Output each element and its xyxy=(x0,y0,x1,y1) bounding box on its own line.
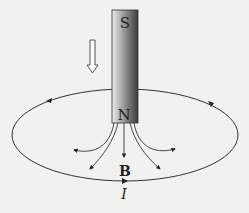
north-pole-label: N xyxy=(117,106,130,124)
field-label-b: B xyxy=(119,163,131,179)
current-label-i: I xyxy=(120,186,127,202)
motion-down-arrow-icon xyxy=(87,40,98,73)
magnet-induction-diagram: S N B I xyxy=(0,0,249,213)
south-pole-label: S xyxy=(120,14,130,32)
bar-magnet: S N xyxy=(112,10,138,124)
